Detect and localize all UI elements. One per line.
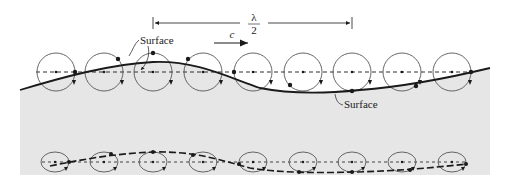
lambda-label: λ [251,11,257,23]
celerity-arrow: c [214,28,248,43]
svg-text:Surface: Surface [140,34,174,46]
svg-text:Surface: Surface [344,98,378,110]
half-wavelength-dimension: λ 2 [153,11,352,36]
wave-orbit-diagram: λ 2 c [0,0,508,188]
celerity-label: c [230,28,235,40]
two-label: 2 [251,24,257,36]
